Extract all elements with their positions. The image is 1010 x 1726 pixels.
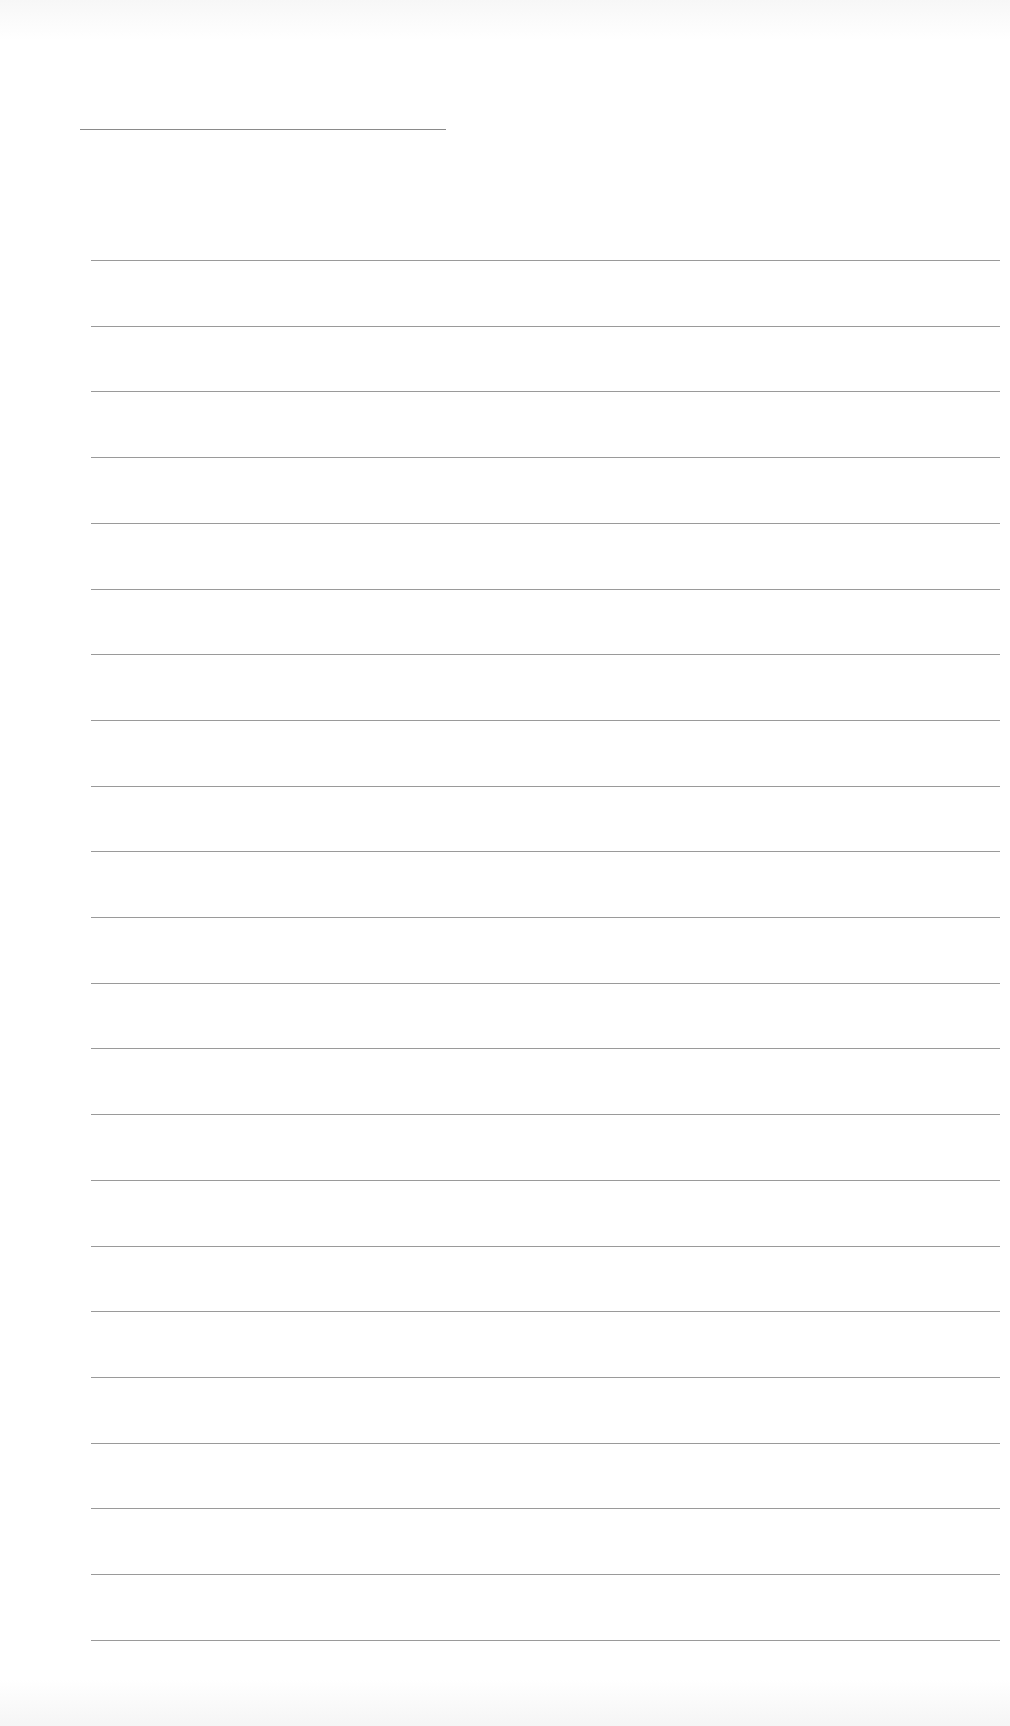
title-write-line bbox=[80, 129, 446, 130]
ruled-line bbox=[91, 917, 1000, 918]
ruled-line bbox=[91, 260, 1000, 261]
ruled-line bbox=[91, 1377, 1000, 1378]
ruled-line bbox=[91, 1443, 1000, 1444]
lined-page bbox=[0, 0, 1010, 1726]
ruled-line bbox=[91, 1048, 1000, 1049]
ruled-line bbox=[91, 983, 1000, 984]
ruled-line bbox=[91, 1180, 1000, 1181]
ruled-line bbox=[91, 326, 1000, 327]
ruled-line bbox=[91, 391, 1000, 392]
ruled-line bbox=[91, 457, 1000, 458]
ruled-line bbox=[91, 1311, 1000, 1312]
ruled-line bbox=[91, 523, 1000, 524]
ruled-line bbox=[91, 1246, 1000, 1247]
ruled-line bbox=[91, 1114, 1000, 1115]
ruled-line bbox=[91, 786, 1000, 787]
ruled-line bbox=[91, 1508, 1000, 1509]
ruled-line bbox=[91, 654, 1000, 655]
ruled-line bbox=[91, 720, 1000, 721]
ruled-line bbox=[91, 1640, 1000, 1641]
ruled-line bbox=[91, 589, 1000, 590]
ruled-line bbox=[91, 851, 1000, 852]
ruled-line bbox=[91, 1574, 1000, 1575]
